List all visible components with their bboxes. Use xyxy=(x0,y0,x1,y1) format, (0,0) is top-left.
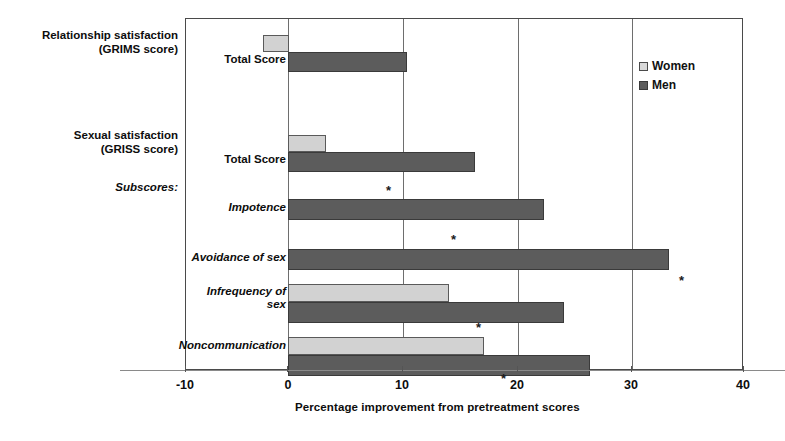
tick-mark-30 xyxy=(631,366,632,372)
bar-men-noncommunication xyxy=(288,355,590,376)
significance-star-avoidance-outer: * xyxy=(679,277,684,285)
tick-label-20: 20 xyxy=(497,378,537,392)
plot-area: Total Score Total Score Impotence * Avoi… xyxy=(185,18,743,370)
tick-mark-20 xyxy=(517,366,518,372)
bar-women-noncommunication xyxy=(288,337,484,355)
legend-label-women: Women xyxy=(652,57,695,76)
gridline-30 xyxy=(632,19,633,369)
bar-label-griss-total: Total Score xyxy=(176,153,286,166)
tick-mark-minus10 xyxy=(185,366,186,372)
bar-label-infrequency: Infrequency of sex xyxy=(141,285,286,311)
group-label-subscores: Subscores: xyxy=(8,180,178,194)
legend-item-men: Men xyxy=(639,76,695,95)
bar-men-avoidance xyxy=(288,249,669,270)
tick-label-minus10: -10 xyxy=(165,378,205,392)
significance-star-impotence: * xyxy=(386,187,391,195)
x-axis-label: Percentage improvement from pretreatment… xyxy=(295,401,580,413)
tick-mark-10 xyxy=(402,366,403,372)
tick-label-10: 10 xyxy=(382,378,422,392)
legend: Women Men xyxy=(639,57,695,95)
significance-star-avoidance: * xyxy=(451,236,456,244)
tick-label-0: 0 xyxy=(268,378,308,392)
tick-mark-0 xyxy=(287,366,288,372)
bar-men-grims-total xyxy=(288,52,407,72)
bar-label-noncommunication: Noncommunication xyxy=(138,339,286,352)
legend-item-women: Women xyxy=(639,57,695,76)
tick-label-30: 30 xyxy=(611,378,651,392)
bar-women-griss-total xyxy=(288,135,326,152)
bar-label-avoidance: Avoidance of sex xyxy=(141,251,286,264)
bar-men-infrequency xyxy=(288,302,564,323)
bar-women-grims-total xyxy=(263,35,289,52)
legend-swatch-women-icon xyxy=(639,62,648,71)
group-label-grims: Relationship satisfaction (GRIMS score) xyxy=(8,28,178,56)
bar-label-grims-total: Total Score xyxy=(176,53,286,66)
significance-star-infrequency: * xyxy=(476,324,481,332)
tick-label-40: 40 xyxy=(723,378,763,392)
bar-women-infrequency xyxy=(288,284,449,302)
bar-men-impotence xyxy=(288,199,544,220)
x-axis-line xyxy=(120,370,785,371)
bar-men-griss-total xyxy=(288,152,475,172)
group-label-griss: Sexual satisfaction (GRISS score) xyxy=(8,128,178,156)
bar-label-impotence: Impotence xyxy=(176,201,286,214)
tick-mark-40 xyxy=(743,366,744,372)
legend-label-men: Men xyxy=(652,76,676,95)
legend-swatch-men-icon xyxy=(639,81,648,90)
